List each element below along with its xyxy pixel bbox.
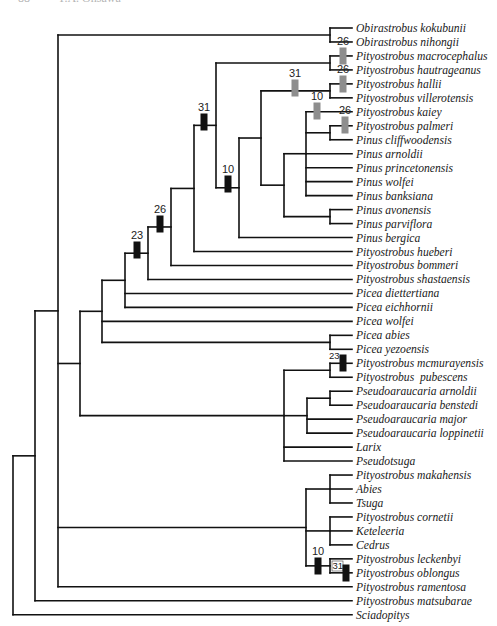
bar-marker [340,76,347,93]
taxon-label: Pityostrobus villerotensis [355,92,474,105]
bar-marker [340,355,347,372]
taxon-label: Pseudotsuga [355,455,415,468]
taxon-label: Picea diettertiana [355,287,440,300]
taxon-label: Pityostrobus leckenbyi [355,553,461,566]
taxon-label: Pityostrobus macrocephalus [355,50,488,63]
taxon-label: Pinus banksiana [355,190,433,203]
taxon-label: Picea wolfei [355,315,414,328]
bar-count-label: 31 [198,101,210,113]
taxon-label: Pinus avonensis [355,204,432,217]
bar-marker [314,103,321,120]
taxon-label: Larix [355,441,382,454]
bar-count-label: 31 [333,560,344,571]
bar-marker [157,216,164,233]
taxon-label: Pseudoaraucaria major [355,413,468,426]
bar-count-label: 10 [222,163,234,175]
taxon-label: Pityostrobus hautrageanus [355,64,481,77]
bar-count-label: 26 [154,203,166,215]
taxon-label: Pseudoaraucaria loppinetii [355,427,484,440]
bar-marker [292,80,299,97]
taxon-label: Pityostrobus pubescens [355,371,468,384]
taxon-label: Pityostrobus hallii [355,78,442,91]
bar-marker [201,114,208,131]
gray-character-bar: 26 [339,104,351,134]
black-character-bar: 31 [332,560,350,582]
taxon-label: Pseudoaraucaria benstedi [355,399,478,412]
taxon-label: Abies [355,483,382,496]
phylogenetic-tree: 311026233126261026231031 Obirastrobus ko… [0,0,497,626]
bar-count-label: 10 [311,90,323,102]
taxon-label: Pityostrobus ramentosa [355,581,466,594]
taxon-label: Picea yezoensis [355,343,430,356]
taxon-label: Tsuga [356,497,383,510]
taxon-label: Pityostrobus bommeri [355,259,458,272]
taxon-label: Picea abies [355,329,410,342]
bar-count-label: 26 [337,63,349,75]
bar-marker [134,242,141,259]
gray-character-bar: 26 [337,63,349,93]
taxon-label: Pityostrobus cornetii [355,511,453,524]
bar-count-label: 23 [329,350,340,361]
black-character-bar: 10 [312,545,324,575]
gray-character-bar: 26 [337,35,349,65]
bar-marker [342,117,349,134]
taxon-label: Pinus cliffwoodensis [355,134,452,147]
taxon-label: Obirastrobus nihongii [356,36,459,49]
taxon-label: Pinus wolfei [355,176,414,189]
taxon-label: Pityostrobus matsubarae [355,595,472,608]
taxon-label: Pityostrobus shastaensis [355,273,470,286]
taxon-labels: Obirastrobus kokubuniiObirastrobus nihon… [355,22,488,622]
black-character-bar: 26 [154,203,166,233]
bar-count-label: 23 [131,229,143,241]
taxon-label: Pityostrobus mcmurayensis [355,357,484,370]
taxon-label: Pityostrobus makahensis [355,469,472,482]
bar-count-label: 10 [312,545,324,557]
tree-branches [13,28,352,615]
taxon-label: Pinus parviflora [355,218,433,231]
taxon-label: Pityostrobus hueberi [355,246,453,259]
taxon-label: Cedrus [356,539,390,552]
taxon-label: Pinus bergica [355,232,420,245]
bar-count-label: 26 [337,35,349,47]
taxon-label: Pinus princetonensis [355,162,453,175]
taxon-label: Picea eichhornii [355,301,433,314]
taxon-label: Pseudoaraucaria arnoldii [355,385,477,398]
taxon-label: Pinus arnoldii [355,148,423,161]
gray-character-bar: 10 [311,90,323,120]
bar-count-label: 26 [339,104,351,116]
bar-count-label: 31 [289,67,301,79]
bar-marker [343,565,350,582]
taxon-label: Pityostrobus kaiey [355,106,442,119]
taxon-label: Sciadopitys [356,609,410,622]
bar-marker [315,558,322,575]
taxon-label: Keteleeria [355,525,404,538]
gray-character-bar: 31 [289,67,301,97]
taxon-label: Obirastrobus kokubunii [356,22,466,35]
taxon-label: Pityostrobus palmeri [355,120,453,133]
taxon-label: Pityostrobus oblongus [355,567,460,580]
black-character-bar: 23 [329,350,347,372]
bar-marker [225,176,232,193]
